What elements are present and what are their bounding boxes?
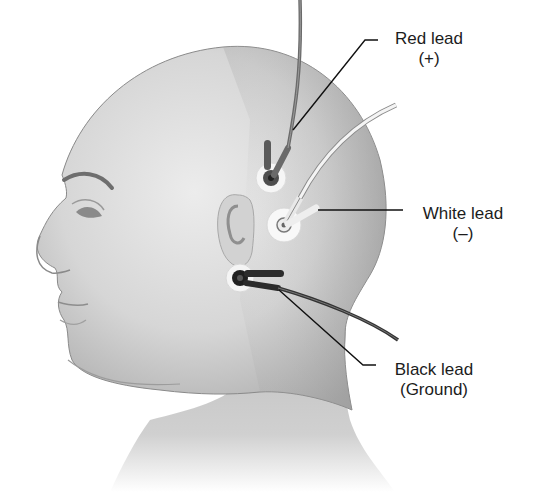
white-lead-title: White lead xyxy=(407,204,519,224)
black-lead-polarity: (Ground) xyxy=(380,380,488,400)
head-illustration xyxy=(0,0,537,492)
black-lead-title: Black lead xyxy=(380,360,488,380)
red-lead-label: Red lead (+) xyxy=(381,29,477,69)
white-lead-polarity: (–) xyxy=(407,224,519,244)
black-lead-label: Black lead (Ground) xyxy=(380,360,488,400)
red-lead-title: Red lead xyxy=(381,29,477,49)
electrode-placement-diagram: Red lead (+) White lead (–) Black lead (… xyxy=(0,0,537,492)
red-lead-polarity: (+) xyxy=(381,49,477,69)
white-lead-label: White lead (–) xyxy=(407,204,519,244)
